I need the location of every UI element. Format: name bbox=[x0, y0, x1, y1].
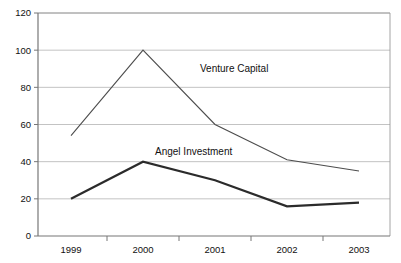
x-tick-label-2002: 2002 bbox=[276, 244, 297, 255]
y-tick-label-60: 60 bbox=[20, 119, 31, 130]
chart-canvas: 020406080100120 19992000200120022003 Ven… bbox=[0, 0, 401, 263]
series-line-angel-investment bbox=[71, 162, 359, 207]
x-tick-label-2000: 2000 bbox=[132, 244, 153, 255]
series-label-venture-capital: Venture Capital bbox=[200, 63, 268, 74]
x-tick-label-2001: 2001 bbox=[204, 244, 225, 255]
y-tick-label-0: 0 bbox=[26, 230, 31, 241]
y-tick-label-80: 80 bbox=[20, 82, 31, 93]
series-label-angel-investment: Angel Investment bbox=[155, 146, 232, 157]
x-axis-ticks: 19992000200120022003 bbox=[60, 236, 369, 255]
y-axis-ticks: 020406080100120 bbox=[15, 7, 38, 241]
y-tick-label-20: 20 bbox=[20, 193, 31, 204]
y-tick-label-40: 40 bbox=[20, 156, 31, 167]
gridlines bbox=[38, 13, 390, 199]
x-tick-label-2003: 2003 bbox=[348, 244, 369, 255]
y-tick-label-120: 120 bbox=[15, 7, 31, 18]
line-chart: 020406080100120 19992000200120022003 Ven… bbox=[0, 0, 401, 263]
x-tick-label-1999: 1999 bbox=[60, 244, 81, 255]
y-tick-label-100: 100 bbox=[15, 45, 31, 56]
